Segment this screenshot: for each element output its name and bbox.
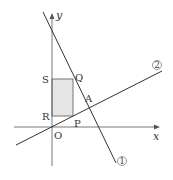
y-axis-arrow-icon [50,13,55,19]
y-axis-label: y [55,9,63,22]
point-r-label: R [42,111,50,122]
point-q-label: Q [75,72,83,83]
point-a-label: A [84,93,93,104]
x-axis-arrow-icon [154,125,160,130]
line-2-label-number: 2 [154,60,160,70]
line-1-label-number: 1 [119,156,125,166]
rectangle-sqpr [52,79,73,116]
line-2-label: 2 [153,60,162,70]
point-s-label: S [42,74,49,85]
point-p-label: P [74,118,81,129]
diagram-canvas: y x O S Q R P A 2 1 [0,0,173,180]
x-axis-label: x [153,130,160,143]
line-1-label: 1 [118,156,127,166]
line-2 [16,71,162,145]
origin-label: O [54,130,62,141]
